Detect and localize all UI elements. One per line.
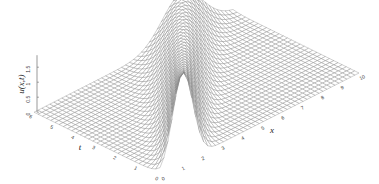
x-tick-label: 4 xyxy=(240,134,245,141)
x-tick-label: 3 xyxy=(220,145,225,152)
t-axis-label: t xyxy=(79,142,82,152)
z-tick-label: 0.5 xyxy=(25,96,31,103)
x-tick-label: 2 xyxy=(200,155,205,162)
t-tick-label: 2 xyxy=(112,154,117,161)
x-tick-label: 1 xyxy=(180,165,185,172)
t-tick-label: 4 xyxy=(70,134,75,141)
surface-plot: 00.511.5 012345678910 0123456 u(x,t) x t xyxy=(0,0,379,184)
x-tick-label: 0 xyxy=(160,175,165,182)
x-tick-label: 7 xyxy=(300,104,305,111)
t-tick-label: 0 xyxy=(154,175,159,182)
t-tick-label: 3 xyxy=(91,144,96,151)
x-tick-label: 10 xyxy=(358,73,366,81)
x-axis-label: x xyxy=(269,125,274,135)
x-tick-label: 9 xyxy=(340,84,345,91)
z-tick-label: 1.5 xyxy=(25,66,31,73)
wireframe-surface xyxy=(34,0,359,169)
x-tick-label: 6 xyxy=(280,114,285,121)
z-axis-label: u(x,t) xyxy=(16,74,26,93)
x-tick-label: 5 xyxy=(260,124,265,131)
t-tick-label: 5 xyxy=(49,123,54,130)
x-tick-label: 8 xyxy=(320,94,325,101)
t-tick-label: 1 xyxy=(133,165,138,172)
